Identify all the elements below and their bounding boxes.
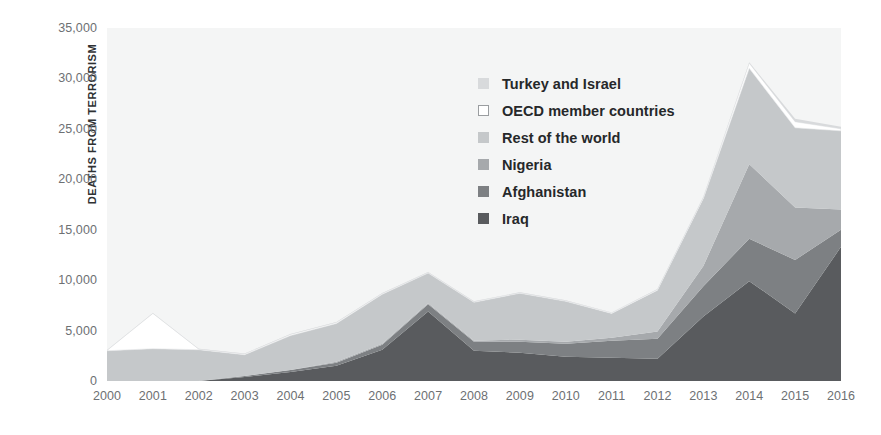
chart-legend: Turkey and IsraelOECD member countriesRe…: [478, 70, 675, 232]
x-tick-label: 2008: [452, 389, 496, 403]
x-tick-label: 2002: [177, 389, 221, 403]
x-tick-label: 2005: [314, 389, 358, 403]
y-tick-label: 5,000: [35, 324, 97, 338]
y-tick-label: 20,000: [35, 172, 97, 186]
x-tick-label: 2003: [223, 389, 267, 403]
legend-swatch-icon: [478, 213, 489, 224]
x-tick-label: 2015: [773, 389, 817, 403]
legend-item-label: Iraq: [502, 211, 529, 227]
y-tick-label: 15,000: [35, 223, 97, 237]
legend-swatch-icon: [478, 132, 489, 143]
legend-item-label: Nigeria: [502, 157, 552, 173]
x-tick-label: 2006: [360, 389, 404, 403]
legend-item[interactable]: Turkey and Israel: [478, 70, 675, 97]
legend-item[interactable]: OECD member countries: [478, 97, 675, 124]
stacked-area-plot: [107, 28, 841, 381]
x-tick-label: 2004: [269, 389, 313, 403]
x-tick-label: 2016: [819, 389, 863, 403]
x-tick-label: 2000: [85, 389, 129, 403]
legend-item[interactable]: Afghanistan: [478, 178, 675, 205]
x-tick-label: 2014: [727, 389, 771, 403]
legend-item[interactable]: Iraq: [478, 205, 675, 232]
x-tick-label: 2001: [131, 389, 175, 403]
legend-item[interactable]: Rest of the world: [478, 124, 675, 151]
y-tick-label: 30,000: [35, 71, 97, 85]
legend-item-label: OECD member countries: [502, 103, 675, 119]
y-tick-label: 0: [35, 374, 97, 388]
x-tick-label: 2009: [498, 389, 542, 403]
x-tick-label: 2010: [544, 389, 588, 403]
legend-item-label: Rest of the world: [502, 130, 620, 146]
x-tick-label: 2011: [590, 389, 634, 403]
legend-swatch-icon: [478, 186, 489, 197]
legend-swatch-icon: [478, 105, 489, 116]
legend-item-label: Turkey and Israel: [502, 76, 621, 92]
legend-item[interactable]: Nigeria: [478, 151, 675, 178]
y-tick-label: 25,000: [35, 122, 97, 136]
x-tick-label: 2012: [636, 389, 680, 403]
x-tick-label: 2007: [406, 389, 450, 403]
legend-swatch-icon: [478, 159, 489, 170]
y-tick-label: 35,000: [35, 21, 97, 35]
x-tick-label: 2013: [681, 389, 725, 403]
legend-item-label: Afghanistan: [502, 184, 586, 200]
legend-swatch-icon: [478, 78, 489, 89]
chart-figure: DEATHS FROM TERRORISM 05,00010,00015,000…: [0, 0, 881, 435]
y-tick-label: 10,000: [35, 273, 97, 287]
